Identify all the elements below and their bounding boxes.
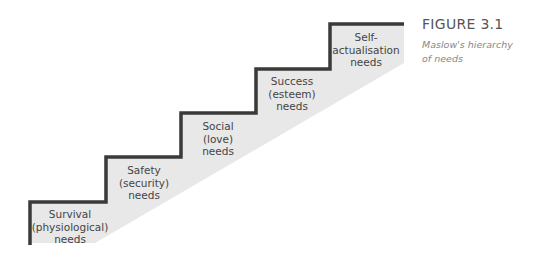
step-line: needs [252, 100, 332, 113]
step-line: (security) [104, 177, 184, 190]
figure-caption: Maslow's hierarchy of needs [422, 38, 532, 66]
step-line: (love) [178, 133, 258, 146]
step-line: Survival [30, 208, 110, 221]
step-line: actualisation [326, 44, 406, 57]
step-line: needs [178, 145, 258, 158]
step-line: needs [326, 56, 406, 69]
step-label-survival: Survival (physiological) needs [30, 208, 110, 246]
figure-title: FIGURE 3.1 [422, 16, 504, 32]
caption-line: Maslow's hierarchy [422, 38, 532, 52]
step-line: Social [178, 120, 258, 133]
step-line: Safety [104, 164, 184, 177]
step-line: Self- [326, 31, 406, 44]
step-line: needs [30, 233, 110, 246]
step-line: (physiological) [30, 221, 110, 234]
step-label-social: Social (love) needs [178, 120, 258, 158]
step-label-success: Success (esteem) needs [252, 75, 332, 113]
step-line: (esteem) [252, 88, 332, 101]
step-label-self-actualisation: Self- actualisation needs [326, 31, 406, 69]
caption-line: of needs [422, 52, 532, 66]
step-line: needs [104, 189, 184, 202]
step-label-safety: Safety (security) needs [104, 164, 184, 202]
step-line: Success [252, 75, 332, 88]
